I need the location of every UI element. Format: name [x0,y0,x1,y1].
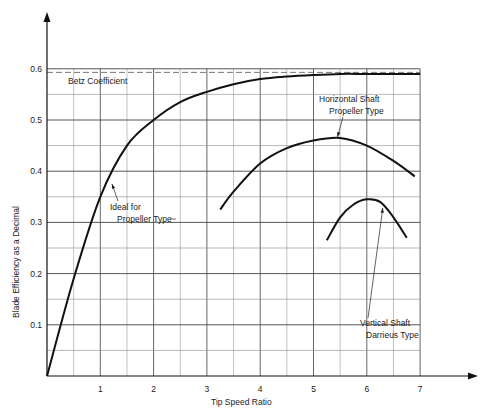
x-tick-label: 7 [418,384,423,394]
y-axis-label: Blade Efficiency as a Decimal [11,206,21,318]
horizontal-label-2: Propeller Type [329,106,384,116]
efficiency-chart: 12345670.10.20.30.40.50.6 Betz Coefficie… [0,0,484,416]
horizontal-label-1: Horizontal Shaft [319,94,380,104]
betz-label: Betz Coefficient [68,76,128,86]
ideal-label-1: Ideal for [110,202,141,212]
y-tick-label: 0.1 [30,320,42,330]
x-tick-label: 4 [258,384,263,394]
annotations: Betz Coefficient Ideal for Propeller Typ… [11,76,419,407]
arrowhead-icon [380,208,383,213]
vertical-arrow [368,208,383,318]
x-axis-arrow-icon [468,373,478,380]
vertical-label-1: Vertical Shaft [360,318,411,328]
x-tick-label: 3 [205,384,210,394]
x-tick-label: 5 [311,384,316,394]
y-axis-arrow-icon [44,12,51,22]
x-tick-label: 2 [151,384,156,394]
x-axis-label: Tip Speed Ratio [211,397,272,407]
arrowhead-icon [112,184,115,189]
y-tick-label: 0.6 [30,64,42,74]
x-tick-label: 6 [364,384,369,394]
y-tick-label: 0.3 [30,217,42,227]
ideal-label-2: Propeller Type [117,214,172,224]
y-tick-label: 0.2 [30,269,42,279]
vertical-label-2: Darrieus Type [366,330,419,340]
x-tick-label: 1 [98,384,103,394]
horizontal-shaft-curve [220,138,415,210]
y-tick-label: 0.4 [30,166,42,176]
y-tick-label: 0.5 [30,115,42,125]
